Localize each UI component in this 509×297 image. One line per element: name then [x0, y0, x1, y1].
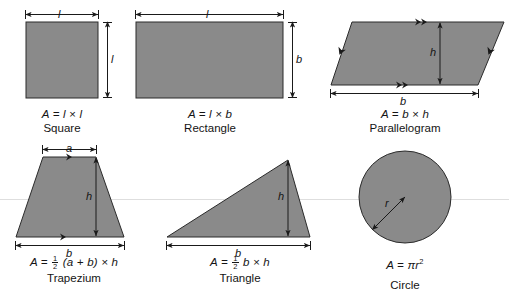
square-formula-a: A =	[42, 108, 63, 120]
trapezium-formula-rest: (a + b) × h	[63, 256, 118, 268]
trapezium-fraction-denominator: 2	[52, 262, 58, 271]
triangle-formula-rest: b × h	[243, 256, 270, 268]
shape-trapezium	[16, 145, 125, 250]
triangle-body	[167, 160, 310, 237]
trapezium-top-label: a	[66, 142, 72, 154]
caption-triangle: A = 12 b × h Triangle	[178, 255, 302, 285]
parallelogram-body	[331, 22, 504, 85]
shape-rectangle	[136, 10, 298, 98]
triangle-height-label: h	[278, 190, 284, 202]
square-formula: A = l × l	[0, 107, 124, 121]
triangle-formula-a: A =	[210, 256, 231, 268]
triangle-fraction-numerator: 1	[232, 255, 238, 263]
square-top-label: l	[58, 8, 60, 20]
square-formula-rest: l × l	[63, 108, 82, 120]
caption-trapezium: A = 12 (a + b) × h Trapezium	[0, 255, 148, 285]
caption-square: A = l × l Square	[0, 107, 124, 135]
rectangle-name: Rectangle	[148, 121, 272, 135]
parallelogram-formula-rest: b × h	[402, 108, 429, 120]
trapezium-body	[16, 157, 124, 237]
rectangle-formula: A = l × b	[148, 107, 272, 121]
parallelogram-formula: A = b × h	[341, 107, 469, 121]
shape-parallelogram	[331, 19, 505, 99]
circle-name: Circle	[345, 278, 465, 292]
triangle-name: Triangle	[178, 271, 302, 285]
circle-formula-exponent: 2	[419, 257, 423, 266]
triangle-formula-fraction: 12	[232, 255, 238, 271]
caption-circle: A = πr2 Circle	[345, 255, 465, 292]
triangle-formula: A = 12 b × h	[178, 255, 302, 271]
geometry-figure	[0, 0, 509, 297]
trapezium-formula-a: A =	[30, 256, 51, 268]
trapezium-height-label: h	[86, 190, 92, 202]
circle-radius-label: r	[385, 197, 389, 209]
trapezium-fraction-numerator: 1	[52, 255, 58, 263]
parallelogram-name: Parallelogram	[341, 121, 469, 135]
square-body	[26, 22, 98, 98]
parallelogram-base-label: b	[400, 95, 406, 107]
shape-triangle	[167, 160, 311, 250]
shape-square	[26, 10, 113, 98]
trapezium-name: Trapezium	[0, 271, 148, 285]
circle-formula-a: A =	[386, 259, 407, 271]
trapezium-formula: A = 12 (a + b) × h	[0, 255, 148, 271]
parallelogram-formula-a: A =	[381, 108, 402, 120]
triangle-fraction-denominator: 2	[232, 262, 238, 271]
caption-rectangle: A = l × b Rectangle	[148, 107, 272, 135]
shape-circle	[359, 151, 451, 243]
square-right-label: l	[111, 53, 113, 65]
caption-parallelogram: A = b × h Parallelogram	[341, 107, 469, 135]
rectangle-formula-a: A =	[188, 108, 209, 120]
circle-formula: A = πr2	[345, 255, 465, 272]
rectangle-formula-rest: l × b	[209, 108, 232, 120]
circle-formula-rest: πr	[407, 259, 419, 271]
square-name: Square	[0, 121, 124, 135]
parallelogram-height-label: h	[430, 46, 436, 58]
rectangle-right-label: b	[296, 53, 302, 65]
trapezium-formula-fraction: 12	[52, 255, 58, 271]
rectangle-body	[136, 22, 283, 98]
rectangle-top-label: l	[206, 8, 208, 20]
